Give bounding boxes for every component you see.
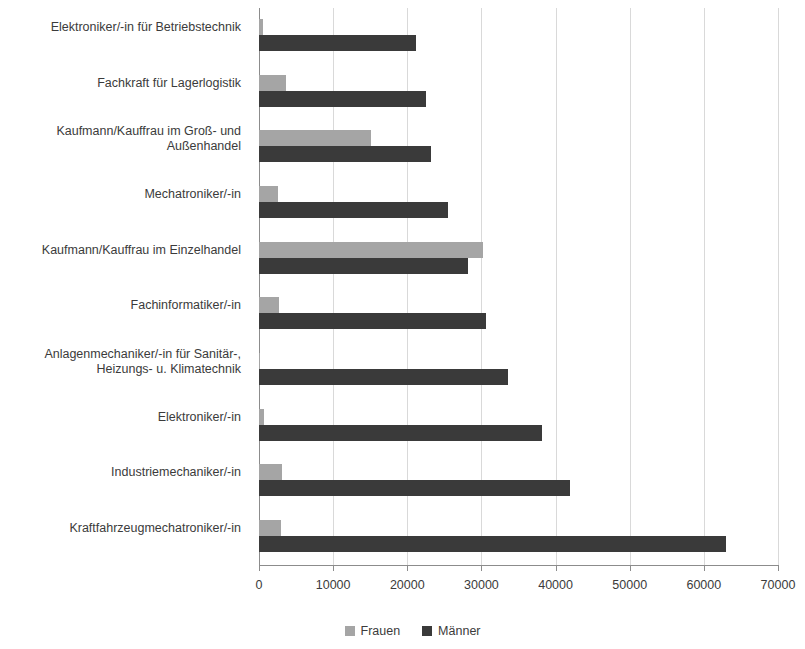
- y-axis-tick-label: Kaufmann/Kauffrau im Einzelhandel: [42, 243, 241, 259]
- bar-frauen: [259, 464, 282, 480]
- x-axis-tick-label: 0: [256, 578, 263, 592]
- gridline: [778, 8, 779, 565]
- y-axis-labels: Elektroniker/-in für BetriebstechnikFach…: [0, 8, 251, 565]
- bar-frauen: [259, 242, 483, 258]
- y-axis-tick-label: Elektroniker/-in für Betriebstechnik: [51, 20, 241, 36]
- y-axis-tick-label: Fachkraft für Lagerlogistik: [97, 76, 241, 92]
- x-axis-tick: [481, 565, 482, 571]
- chart-legend: FrauenMänner: [0, 624, 805, 638]
- bar-group: [259, 509, 778, 565]
- bar-group: [259, 175, 778, 231]
- bar-maenner: [259, 536, 726, 552]
- x-axis-tick: [407, 565, 408, 571]
- y-axis-tick-label: Industriemechaniker/-in: [111, 465, 241, 481]
- x-axis-tick-label: 10000: [316, 578, 351, 592]
- bar-maenner: [259, 35, 416, 51]
- bar-group: [259, 398, 778, 454]
- bar-frauen: [259, 75, 286, 91]
- x-axis-tick: [704, 565, 705, 571]
- y-axis-tick-label: Mechatroniker/-in: [144, 187, 241, 203]
- bar-group: [259, 8, 778, 64]
- x-axis-tick-label: 60000: [686, 578, 721, 592]
- bar-group: [259, 119, 778, 175]
- x-axis-tick: [333, 565, 334, 571]
- bar-frauen: [259, 409, 264, 425]
- plot-area: [259, 8, 778, 565]
- bar-frauen: [259, 297, 279, 313]
- x-axis-tick-label: 40000: [538, 578, 573, 592]
- bar-maenner: [259, 480, 570, 496]
- legend-label: Frauen: [361, 624, 401, 638]
- bar-frauen: [259, 19, 263, 35]
- x-axis-line: [259, 565, 778, 566]
- x-axis-tick: [556, 565, 557, 571]
- bar-group: [259, 287, 778, 343]
- x-axis-tick: [259, 565, 260, 571]
- bar-frauen: [259, 353, 260, 369]
- y-axis-tick-label: Kaufmann/Kauffrau im Groß- und Außenhand…: [56, 124, 241, 155]
- legend-swatch-icon: [422, 626, 432, 636]
- y-axis-tick-label: Kraftfahrzeugmechatroniker/-in: [69, 521, 241, 537]
- bar-frauen: [259, 186, 278, 202]
- x-axis-tick-label: 30000: [464, 578, 499, 592]
- x-axis-tick-label: 20000: [390, 578, 425, 592]
- legend-item-männer[interactable]: Männer: [422, 624, 480, 638]
- legend-label: Männer: [438, 624, 480, 638]
- x-axis-tick: [630, 565, 631, 571]
- bar-frauen: [259, 130, 371, 146]
- bar-maenner: [259, 202, 448, 218]
- x-axis-tick: [778, 565, 779, 571]
- bar-maenner: [259, 313, 486, 329]
- bar-group: [259, 64, 778, 120]
- legend-item-frauen[interactable]: Frauen: [345, 624, 401, 638]
- bar-maenner: [259, 146, 431, 162]
- y-axis-tick-label: Elektroniker/-in: [158, 410, 241, 426]
- y-axis-tick-label: Fachinformatiker/-in: [131, 298, 241, 314]
- bar-group: [259, 231, 778, 287]
- bar-frauen: [259, 520, 281, 536]
- bar-maenner: [259, 258, 468, 274]
- bar-maenner: [259, 369, 508, 385]
- x-axis-tick-label: 50000: [612, 578, 647, 592]
- bar-chart: Elektroniker/-in für BetriebstechnikFach…: [0, 0, 805, 649]
- bar-maenner: [259, 91, 426, 107]
- bar-maenner: [259, 425, 542, 441]
- bar-group: [259, 454, 778, 510]
- legend-swatch-icon: [345, 626, 355, 636]
- x-axis-tick-label: 70000: [761, 578, 796, 592]
- bar-group: [259, 342, 778, 398]
- y-axis-tick-label: Anlagenmechaniker/-in für Sanitär-, Heiz…: [44, 347, 241, 378]
